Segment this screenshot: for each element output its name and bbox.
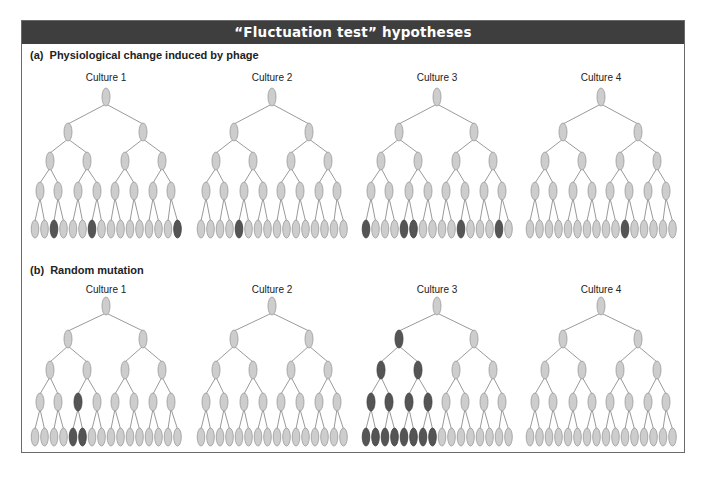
sensitive-cell-node — [139, 123, 147, 141]
lineage-edge — [456, 346, 474, 362]
lineage-edge — [461, 409, 465, 429]
sensitive-cell-node — [545, 220, 553, 238]
sensitive-cell-node — [480, 182, 488, 200]
resistant-cell-node — [410, 220, 418, 238]
sensitive-cell-node — [438, 428, 446, 446]
lineage-edge — [337, 198, 344, 221]
lineage-edge — [153, 168, 162, 183]
sensitive-cell-node — [653, 361, 661, 379]
sensitive-cell-node — [197, 220, 205, 238]
sensitive-cell-node — [486, 220, 494, 238]
sensitive-cell-node — [433, 297, 441, 315]
lineage-edge — [253, 377, 263, 394]
lineage-edge — [499, 198, 502, 221]
resistant-cell-node — [429, 428, 437, 446]
lineage-edge — [143, 346, 162, 362]
lineage-edge — [573, 409, 578, 429]
lineage-edge — [300, 198, 306, 221]
sensitive-cell-node — [602, 220, 610, 238]
sensitive-cell-node — [448, 428, 456, 446]
sensitive-cell-node — [612, 428, 620, 446]
sensitive-cell-node — [174, 428, 182, 446]
lineage-edge — [58, 198, 64, 221]
lineage-edge — [130, 198, 134, 221]
lineage-edge — [371, 168, 381, 183]
sensitive-cell-node — [448, 220, 456, 238]
lineage-edge — [502, 409, 509, 429]
lineage-edge — [201, 409, 206, 429]
lineage-edge — [50, 139, 68, 153]
sensitive-cell-node — [505, 220, 513, 238]
sensitive-cell-node — [79, 220, 87, 238]
sensitive-cell-node — [111, 182, 119, 200]
sensitive-cell-node — [602, 428, 610, 446]
sensitive-cell-node — [536, 220, 544, 238]
lineage-edge — [563, 104, 601, 124]
sensitive-cell-node — [662, 182, 670, 200]
sensitive-cell-node — [467, 220, 475, 238]
sensitive-cell-node — [36, 393, 44, 411]
lineage-edge — [54, 198, 58, 221]
lineage-edge — [334, 409, 337, 429]
lineage-edge — [381, 377, 389, 394]
resistant-cell-node — [410, 428, 418, 446]
lineage-edge — [587, 198, 592, 221]
lineage-edge — [474, 346, 493, 362]
lineage-edge — [171, 198, 178, 221]
resistant-cell-node — [395, 330, 403, 348]
sensitive-cell-node — [333, 393, 341, 411]
sensitive-cell-node — [277, 182, 285, 200]
tree-panel-b-culture-1 — [31, 297, 181, 446]
lineage-edge — [465, 409, 471, 429]
sensitive-cell-node — [98, 428, 106, 446]
lineage-edge — [404, 409, 409, 429]
lineage-edge — [399, 346, 418, 362]
lineage-edge — [58, 409, 64, 429]
sensitive-cell-node — [197, 428, 205, 446]
lineage-edge — [92, 409, 97, 429]
lineage-edge — [592, 409, 597, 429]
lineage-edge — [389, 409, 395, 429]
sensitive-cell-node — [259, 182, 267, 200]
lineage-edge — [446, 377, 456, 394]
lineage-edge — [206, 168, 216, 183]
sensitive-cell-node — [498, 182, 506, 200]
sensitive-cell-node — [149, 182, 157, 200]
sensitive-cell-node — [467, 428, 475, 446]
sensitive-cell-node — [268, 88, 276, 106]
lineage-edge — [162, 377, 171, 394]
sensitive-cell-node — [46, 152, 54, 170]
lineage-edge — [423, 198, 428, 221]
sensitive-cell-node — [377, 152, 385, 170]
lineage-edge — [371, 198, 376, 221]
lineage-edge — [309, 139, 328, 153]
lineage-edge — [68, 104, 106, 124]
lineage-edge — [244, 168, 253, 183]
sensitive-cell-node — [333, 182, 341, 200]
lineage-edge — [638, 139, 657, 153]
sensitive-cell-node — [631, 220, 639, 238]
sensitive-cell-node — [340, 220, 348, 238]
lineage-edge — [563, 346, 582, 362]
resistant-cell-node — [400, 428, 408, 446]
sensitive-cell-node — [470, 123, 478, 141]
lineage-edge — [456, 168, 465, 183]
lineage-edge — [244, 377, 253, 394]
resistant-cell-node — [174, 220, 182, 238]
sensitive-cell-node — [597, 297, 605, 315]
sensitive-cell-node — [273, 220, 281, 238]
resistant-cell-node — [362, 428, 370, 446]
sensitive-cell-node — [531, 393, 539, 411]
lineage-edge — [234, 104, 272, 124]
sensitive-cell-node — [121, 361, 129, 379]
tree-panel-a-culture-4 — [526, 88, 676, 238]
sensitive-cell-node — [381, 220, 389, 238]
sensitive-cell-node — [669, 220, 677, 238]
lineage-edge — [648, 409, 654, 429]
sensitive-cell-node — [480, 393, 488, 411]
sensitive-cell-node — [311, 428, 319, 446]
sensitive-cell-node — [385, 182, 393, 200]
sensitive-cell-node — [230, 330, 238, 348]
lineage-edge — [73, 198, 78, 221]
lineage-edge — [428, 409, 433, 429]
